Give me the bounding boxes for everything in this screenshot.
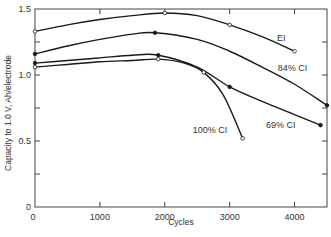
y-tick-label: 1.0 <box>18 70 31 80</box>
y-tick-label: 0.5 <box>18 136 31 146</box>
x-axis-title: Cycles <box>168 217 194 227</box>
data-point-100-ci <box>202 71 206 75</box>
data-point-84-ci <box>33 52 37 56</box>
data-point-69-ci <box>228 85 232 89</box>
x-tick-label: 0 <box>30 212 35 222</box>
capacity-vs-cycles-chart: 0100020003000400000.51.01.5CyclesCapacit… <box>0 0 331 237</box>
data-point-100-ci <box>156 57 160 61</box>
series-annotation: EI <box>277 33 286 43</box>
data-point-69-ci <box>33 61 37 65</box>
series-annotation: 84% CI <box>278 63 308 73</box>
series-line-ei <box>35 13 295 51</box>
series-annotation: 69% CI <box>266 120 296 130</box>
data-point-ei <box>228 23 232 27</box>
y-tick-label: 0 <box>26 202 31 212</box>
x-tick-label: 4000 <box>285 212 305 222</box>
data-point-69-ci <box>319 123 323 127</box>
data-point-84-ci <box>153 31 157 35</box>
x-tick-label: 3000 <box>220 212 240 222</box>
x-tick-label: 1000 <box>90 212 110 222</box>
data-point-100-ci <box>33 65 37 69</box>
y-axis-title: Capacity to 1.0 V, Ah/electrode <box>3 55 13 171</box>
series-annotation: 100% CI <box>193 125 228 135</box>
data-point-84-ci <box>325 104 329 108</box>
labels-layer: EI84% CI69% CI100% CI <box>193 33 308 135</box>
data-point-ei <box>293 49 297 53</box>
y-tick-label: 1.5 <box>18 4 31 14</box>
data-point-69-ci <box>156 53 160 57</box>
data-point-ei <box>163 11 167 15</box>
data-point-100-ci <box>241 137 245 141</box>
data-point-ei <box>33 30 37 34</box>
